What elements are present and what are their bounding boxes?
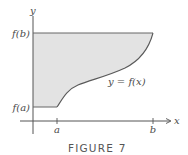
x-axis-label: x <box>174 115 180 126</box>
tick-label-b: b <box>150 124 156 135</box>
figure-caption: FIGURE 7 <box>68 142 127 154</box>
curve-label: y = f(x) <box>107 76 146 87</box>
tick-label-fa: f(a) <box>12 102 31 113</box>
tick-label-fb: f(b) <box>11 28 30 39</box>
figure-canvas: y x f(b) f(a) a b y = f(x) FIGURE 7 <box>0 0 188 155</box>
y-axis-label: y <box>29 5 36 16</box>
shaded-region <box>33 33 153 107</box>
tick-label-a: a <box>54 124 60 135</box>
